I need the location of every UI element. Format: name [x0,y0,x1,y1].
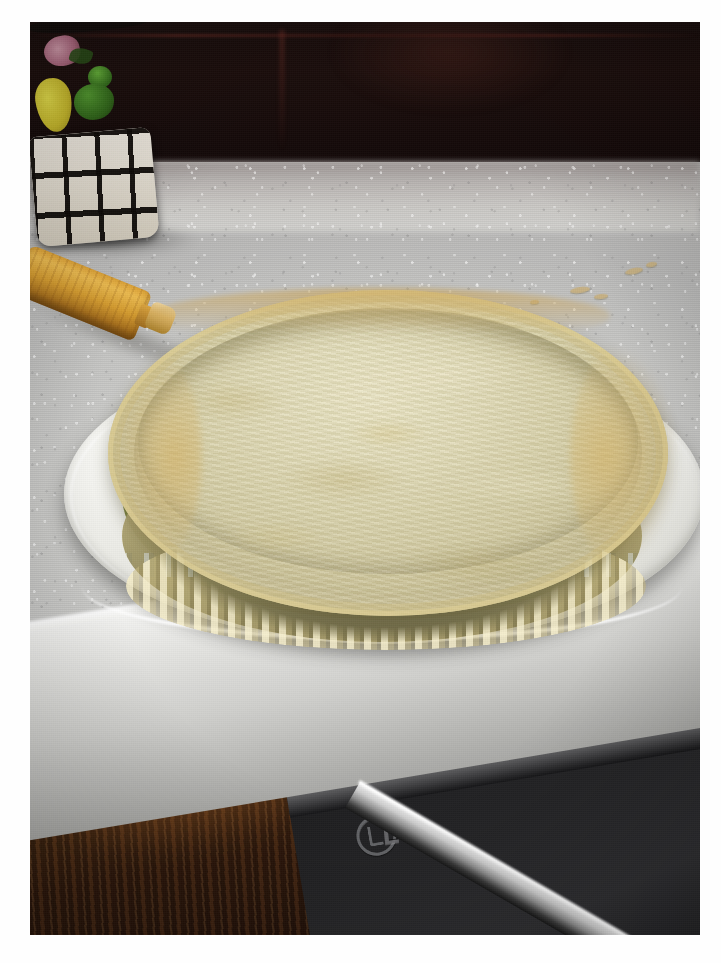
basket-lattice-pattern [30,127,160,247]
fruit-basket [30,127,160,247]
pie-crust-top-browning [150,288,610,344]
wall-light-streak [30,34,700,37]
photo-page: LG [0,0,721,963]
wall-seam-line [280,30,284,150]
pie-crust-right-browning [570,342,680,572]
photograph: LG [30,22,700,935]
pie-crust-front-flutes [126,522,646,650]
pie-crust-left-browning [112,352,202,562]
